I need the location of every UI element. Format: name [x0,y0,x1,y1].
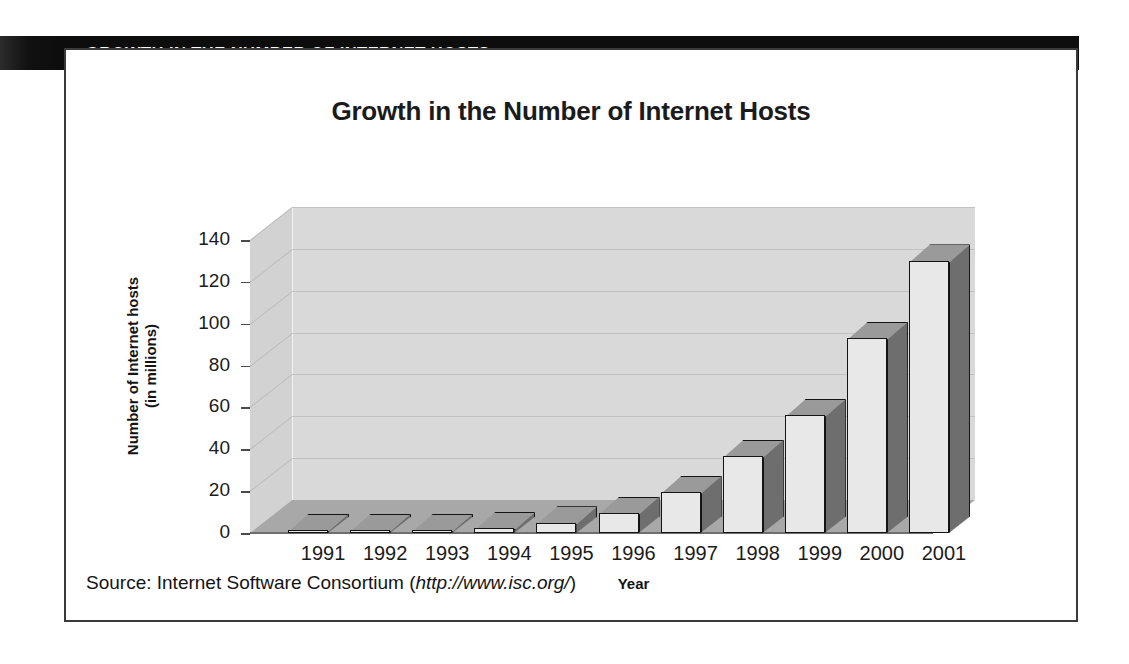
y-axis-title-line2: (in millions) [142,236,160,496]
bar-front-face [412,530,452,533]
y-tick-label: 100 [174,312,230,334]
y-tick-label: 80 [174,354,230,376]
chart-plot-area: 020406080100120140 Number of Internet ho… [64,48,1078,622]
bar-1996 [599,497,639,533]
y-tick-label: 20 [174,479,230,501]
bar-side-face [825,399,846,533]
bar-front-face [909,261,949,533]
bar-front-face [536,523,576,533]
gridline [292,249,975,250]
bar-1997 [661,476,701,533]
source-url[interactable]: http://www.isc.org/ [415,572,569,593]
header-band-texture [0,36,62,70]
source-note: Source: Internet Software Consortium (ht… [86,572,576,594]
gridline [292,207,975,208]
bar-2000 [847,322,887,533]
bar-1995 [536,506,576,533]
y-tick-mark [241,366,250,368]
x-tick-label-2001: 2001 [907,542,981,565]
y-tick-mark [241,240,250,242]
plot-wall-corner-edge [292,207,293,500]
bar-front-face [288,530,328,533]
bar-1994 [474,512,514,533]
y-tick-mark [241,491,250,493]
bar-front-face [350,530,390,533]
bar-front-face [847,338,887,533]
y-tick-label: 40 [174,437,230,459]
bar-front-face [661,492,701,533]
bar-front-face [474,528,514,533]
y-tick-label: 120 [174,270,230,292]
bar-1992 [350,514,390,534]
bar-front-face [599,513,639,533]
source-prefix: Source: Internet Software Consortium ( [86,572,415,593]
y-tick-mark [241,324,250,326]
y-axis-title: Number of Internet hosts (in millions) [124,236,160,496]
bar-front-face [785,415,825,533]
y-tick-mark [241,449,250,451]
source-suffix: ) [570,572,576,593]
bar-1999 [785,399,825,533]
y-tick-label: 140 [174,228,230,250]
bar-1991 [288,514,328,534]
y-tick-label: 60 [174,395,230,417]
bar-front-face [723,456,763,533]
y-axis-title-line1: Number of Internet hosts [124,236,142,496]
bar-2001 [909,244,949,533]
y-tick-mark [241,533,250,535]
bar-1998 [723,440,763,533]
bar-1993 [412,514,452,534]
bar-side-face [949,244,970,533]
gridline [292,291,975,292]
y-tick-mark [241,282,250,284]
y-tick-label: 0 [174,521,230,543]
bar-side-face [887,322,908,533]
y-tick-mark [241,407,250,409]
